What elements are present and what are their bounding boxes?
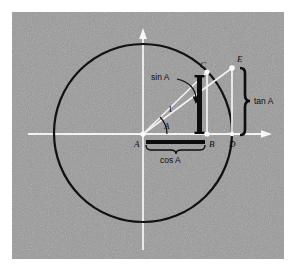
sin-measure-bar — [197, 76, 202, 133]
angle-label: A — [163, 121, 170, 131]
point-label-E: E — [236, 54, 243, 64]
sin-label: sin A — [151, 72, 170, 82]
cos-measure-bar — [146, 140, 205, 144]
one-label: 1 — [168, 104, 173, 114]
tan-label: tan A — [254, 96, 274, 106]
sin-measure-cap-top — [195, 75, 205, 77]
point-label-C: C — [200, 60, 207, 70]
cos-label: cos A — [160, 155, 181, 165]
point-dot-A — [140, 131, 145, 136]
figure-root: A B C D E sin A 1 A cos A tan A — [0, 0, 294, 269]
point-dot-B — [204, 131, 209, 136]
point-label-B: B — [209, 139, 215, 149]
sin-measure-cap-bottom — [195, 132, 205, 134]
point-label-A: A — [133, 139, 140, 149]
unit-circle-figure: A B C D E sin A 1 A cos A tan A — [0, 0, 294, 269]
point-label-D: D — [228, 139, 236, 149]
point-dot-E — [229, 65, 235, 71]
point-dot-D — [230, 132, 234, 136]
point-dot-C — [204, 69, 209, 74]
